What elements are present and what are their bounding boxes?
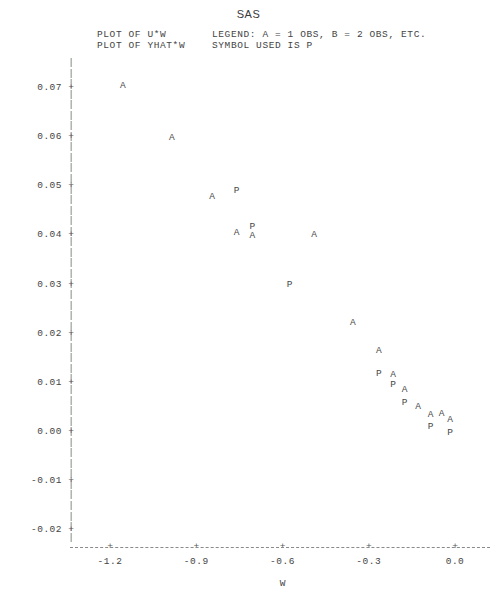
data-point-a: A [400,385,410,395]
y-tick-text: 0.04 [18,230,62,240]
y-tick-marker: + [67,280,75,290]
data-point-p: P [285,280,295,290]
data-point-a: A [348,318,358,328]
data-point-a: A [309,230,319,240]
data-point-a: A [118,81,128,91]
y-tick-label: 0.07 [0,83,62,93]
y-tick-text: 0.06 [18,132,62,142]
data-point-a: A [413,402,423,412]
y-tick-marker: + [67,525,75,535]
y-tick-text: 0.00 [18,427,62,437]
y-tick-marker: + [67,132,75,142]
data-point-a: A [207,192,217,202]
legend-text: LEGEND: A = 1 OBS, B = 2 OBS, ETC. SYMBO… [212,29,426,51]
data-point-a: A [167,133,177,143]
y-tick-marker: + [67,378,75,388]
y-tick-text: 0.05 [18,181,62,191]
data-point-p: P [388,380,398,390]
y-tick-label: 0.05 [0,181,62,191]
y-tick-label: 0.01 [0,378,62,388]
y-tick-label: 0.03 [0,280,62,290]
x-tick-label: -0.3 [339,556,399,567]
y-tick-text: 0.01 [18,378,62,388]
sas-plot-page: SAS PLOT OF U*W PLOT OF YHAT*W LEGEND: A… [0,0,497,599]
x-tick-label: -1.2 [80,556,140,567]
data-point-a: A [232,228,242,238]
x-axis-label: W [263,578,303,589]
y-tick-marker: + [67,83,75,93]
data-point-p: P [445,428,455,438]
data-point-a: A [374,346,384,356]
x-tick-label: -0.9 [166,556,226,567]
x-tick-label: -0.6 [253,556,313,567]
y-tick-label: -0.02 [0,525,62,535]
y-tick-marker: + [67,230,75,240]
y-tick-marker: + [67,181,75,191]
data-point-p: P [426,422,436,432]
data-point-a: A [445,415,455,425]
y-tick-marker: + [67,476,75,486]
y-tick-text: 0.07 [18,83,62,93]
data-point-p: P [374,369,384,379]
y-tick-marker: + [67,427,75,437]
y-tick-label: 0.00 [0,427,62,437]
data-point-p: P [247,222,257,232]
data-point-a: A [426,410,436,420]
y-tick-label: 0.06 [0,132,62,142]
data-point-p: P [400,398,410,408]
plot-of-labels: PLOT OF U*W PLOT OF YHAT*W [97,29,185,51]
page-title: SAS [0,8,497,20]
data-point-a: A [247,231,257,241]
y-tick-text: -0.02 [18,525,62,535]
data-point-p: P [232,186,242,196]
x-axis-line [70,547,490,550]
y-tick-label: 0.02 [0,329,62,339]
y-tick-text: -0.01 [18,476,62,486]
x-tick-label: 0.0 [425,556,485,567]
y-tick-text: 0.03 [18,280,62,290]
y-tick-marker: + [67,329,75,339]
y-tick-label: 0.04 [0,230,62,240]
y-tick-label: -0.01 [0,476,62,486]
y-tick-text: 0.02 [18,329,62,339]
